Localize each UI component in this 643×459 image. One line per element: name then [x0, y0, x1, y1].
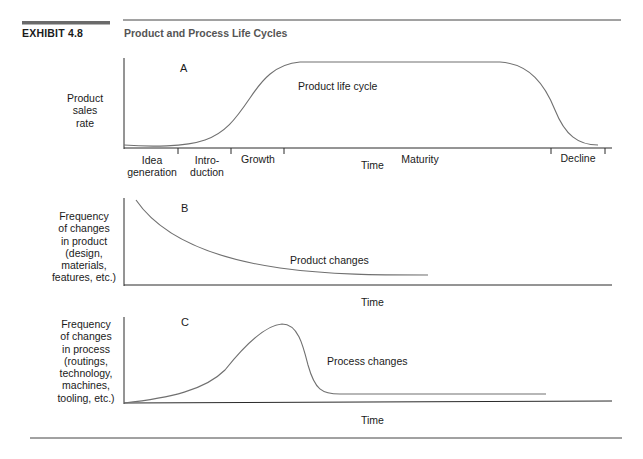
- panel-c-curve-label: Process changes: [327, 355, 408, 367]
- stage-introduction: Intro-duction: [185, 154, 229, 179]
- header-accent-bar: [22, 21, 110, 25]
- product-life-cycle-curve: [124, 62, 598, 146]
- panel-c-letter: C: [181, 316, 189, 328]
- panel-a-letter: A: [180, 62, 187, 74]
- panel-b-y-label: Frequency of changes in product (design,…: [48, 210, 120, 284]
- panel-a: [124, 58, 612, 154]
- panel-c-y-label: Frequency of changes in process (routing…: [52, 318, 120, 404]
- panel-b-letter: B: [181, 202, 188, 214]
- panel-c-x-label: Time: [361, 414, 384, 426]
- stage-growth: Growth: [236, 153, 280, 165]
- panel-b: [124, 198, 612, 286]
- panel-b-x-label: Time: [361, 296, 384, 308]
- product-changes-curve: [136, 200, 428, 275]
- stage-maturity: Maturity: [390, 153, 450, 165]
- stage-idea-generation: Ideageneration: [126, 154, 178, 179]
- panel-b-curve-label: Product changes: [290, 254, 369, 266]
- panel-a-y-label: Product sales rate: [60, 92, 110, 129]
- stage-decline: Decline: [555, 152, 601, 164]
- figure-title: Product and Process Life Cycles: [124, 27, 287, 39]
- panel-a-x-label: Time: [361, 159, 384, 171]
- panel-c-x-axis: [124, 401, 612, 403]
- exhibit-label: EXHIBIT 4.8: [22, 27, 83, 39]
- panel-a-curve-label: Product life cycle: [298, 80, 377, 92]
